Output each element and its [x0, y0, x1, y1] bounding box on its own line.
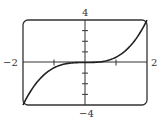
x-max-label: 2	[151, 57, 157, 68]
y-min-label: −4	[79, 108, 94, 119]
function-plot: −2 2 4 −4	[0, 0, 164, 121]
x-min-label: −2	[3, 57, 18, 68]
y-max-label: 4	[82, 7, 88, 18]
